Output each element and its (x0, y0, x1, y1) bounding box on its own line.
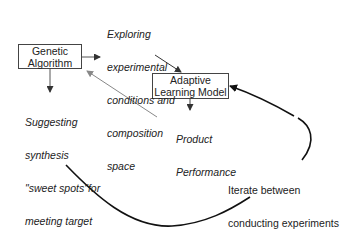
label-line: space (107, 161, 175, 172)
node-label: Algorithm (19, 58, 81, 70)
loop-curve-upper (298, 118, 311, 160)
loop-curve-arrow (230, 86, 294, 116)
label-line: Suggesting (25, 117, 100, 128)
label-line: Product (176, 134, 236, 145)
label-line: "sweet spots"for (25, 183, 100, 194)
label-line: Exploring (107, 29, 175, 40)
label-iterate: Iterate between conducting experiments a… (228, 163, 339, 235)
label-line: meeting target (25, 216, 100, 227)
label-line: synthesis (25, 150, 100, 161)
label-line: experimental (107, 62, 175, 73)
label-suggesting: Suggesting synthesis "sweet spots"for me… (25, 95, 100, 235)
label-line: conditions and (107, 95, 175, 106)
node-genetic-algorithm: Genetic Algorithm (18, 44, 82, 69)
label-line: composition (107, 128, 175, 139)
label-line: Iterate between (228, 185, 339, 196)
label-line: conducting experiments (228, 218, 339, 229)
node-label: Genetic (19, 46, 81, 58)
label-exploring: Exploring experimental conditions and co… (107, 7, 175, 183)
